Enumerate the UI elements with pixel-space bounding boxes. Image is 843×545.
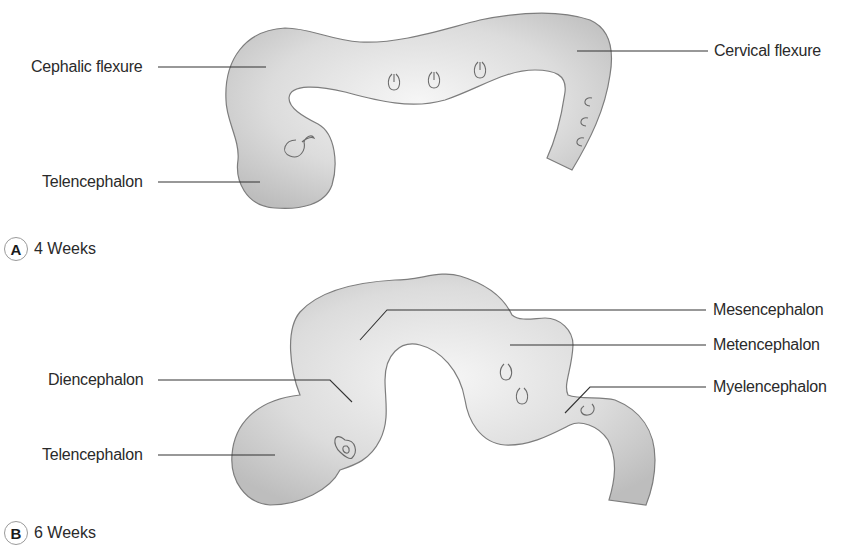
panel-a-age: 4 Weeks [34, 240, 96, 258]
panel-b-neural-tube [232, 274, 655, 505]
panel-b-caption: B 6 Weeks [4, 521, 96, 545]
label-mesencephalon: Mesencephalon [713, 301, 823, 319]
panel-a-neural-tube [226, 13, 612, 208]
label-diencephalon: Diencephalon [48, 371, 143, 389]
label-telencephalon-a: Telencephalon [42, 173, 143, 191]
panel-a-letter-badge: A [4, 237, 28, 261]
label-telencephalon-b: Telencephalon [42, 446, 143, 464]
panel-a-tube-body [226, 13, 612, 208]
panel-a-caption: A 4 Weeks [4, 237, 96, 261]
label-metencephalon: Metencephalon [713, 336, 820, 354]
panel-b-letter-badge: B [4, 521, 28, 545]
panel-b-tube-body [232, 274, 655, 505]
label-cervical-flexure: Cervical flexure [714, 42, 821, 60]
panel-b-age: 6 Weeks [34, 524, 96, 542]
label-myelencephalon: Myelencephalon [713, 378, 827, 396]
label-cephalic-flexure: Cephalic flexure [31, 58, 143, 76]
